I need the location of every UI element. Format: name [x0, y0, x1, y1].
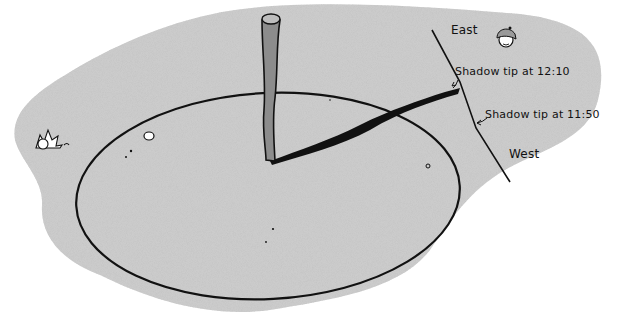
diagram-stage: East Shadow tip at 12:10 Shadow tip at 1… [0, 0, 617, 316]
label-shadow-tip-1210: Shadow tip at 12:10 [455, 65, 570, 78]
label-shadow-tip-1150: Shadow tip at 11:50 [485, 108, 600, 121]
label-east: East [451, 23, 478, 37]
label-west: West [509, 147, 539, 161]
